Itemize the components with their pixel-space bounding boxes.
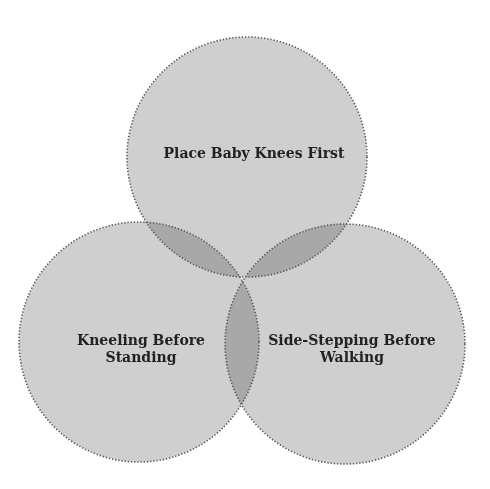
label-right-line-2: Walking [268,349,436,366]
label-top-set: Place Baby Knees First [164,145,345,162]
label-left-line-1: Kneeling Before [77,332,205,349]
venn-diagram [0,0,490,489]
circle-fills [19,37,465,464]
label-left-set: Kneeling Before Standing [77,332,205,366]
label-right-line-1: Side-Stepping Before [268,332,436,349]
label-right-set: Side-Stepping Before Walking [268,332,436,366]
label-left-line-2: Standing [77,349,205,366]
label-top-line-1: Place Baby Knees First [164,145,345,162]
